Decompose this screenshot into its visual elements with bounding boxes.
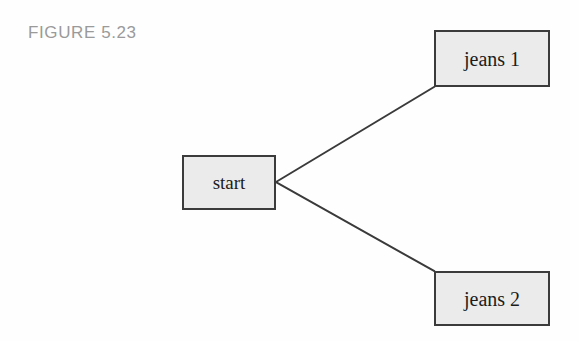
tree-node-jeans-2-label: jeans 2 [464, 289, 520, 309]
tree-node-jeans-2[interactable]: jeans 2 [434, 271, 550, 326]
edge-start-to-jeans-2 [276, 182, 434, 271]
tree-node-jeans-1[interactable]: jeans 1 [434, 30, 550, 87]
tree-node-start[interactable]: start [182, 155, 276, 210]
tree-node-start-label: start [213, 173, 246, 192]
edge-start-to-jeans-1 [276, 87, 434, 182]
figure-canvas: FIGURE 5.23 start jeans 1 jeans 2 [0, 0, 579, 341]
tree-node-jeans-1-label: jeans 1 [464, 49, 520, 69]
